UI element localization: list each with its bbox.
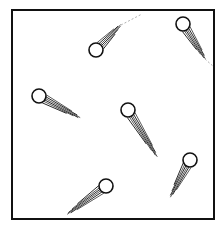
particle-circle [99,179,113,193]
particle-circle [32,89,46,103]
particle [67,179,113,214]
particle-circle [121,103,135,117]
particle [32,89,80,118]
motion-trail [182,27,205,59]
particle-circle [176,17,190,31]
particle-circle [89,43,103,57]
motion-trail [127,113,157,157]
particle [121,103,157,157]
particle [170,153,197,197]
gas-container-diagram [0,0,224,226]
particle [176,17,214,67]
particle-circle [183,153,197,167]
dashed-path-extension [121,14,142,25]
particle [89,14,142,57]
motion-trail [42,95,80,118]
particles-group [32,14,214,214]
motion-trail [170,163,191,197]
motion-trail [67,186,104,215]
dashed-path-extension [205,59,214,67]
